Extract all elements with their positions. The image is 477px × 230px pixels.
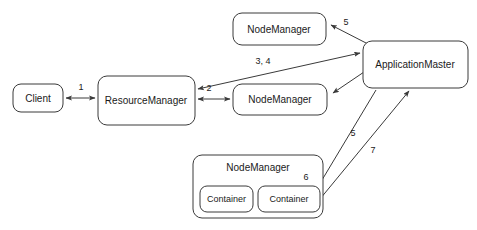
node-resourcemanager-label: ResourceManager xyxy=(105,95,188,106)
node-applicationmaster[interactable]: ApplicationMaster xyxy=(363,41,468,88)
edge-am-nodemanager-mid xyxy=(333,72,364,93)
node-nodemanager-mid-label: NodeManager xyxy=(248,94,312,105)
node-container-left-label: Container xyxy=(207,194,246,204)
yarn-architecture-diagram: ApplicationMaster left edge --> 3, 4 top… xyxy=(0,0,477,230)
node-resourcemanager[interactable]: ResourceManager xyxy=(98,76,195,125)
edge-label-2: 2 xyxy=(206,83,211,93)
node-applicationmaster-label: ApplicationMaster xyxy=(375,59,455,70)
edge-container-am: 7 xyxy=(320,91,409,199)
edge-label-6: 6 xyxy=(303,172,308,182)
diagram-canvas: ApplicationMaster left edge --> 3, 4 top… xyxy=(0,0,477,230)
node-client-label: Client xyxy=(25,93,51,104)
node-container-right-label: Container xyxy=(269,194,308,204)
edge-label-7: 7 xyxy=(370,145,375,155)
node-nodemanager-top[interactable]: NodeManager xyxy=(233,13,326,45)
node-nodemanager-top-label: NodeManager xyxy=(247,24,311,35)
edge-am-nodemanager-top: 5 xyxy=(331,17,368,44)
edge-label-5-bottom: 5 xyxy=(350,128,355,138)
edge-label-5-top: 5 xyxy=(343,17,348,27)
node-client[interactable]: Client xyxy=(13,84,63,112)
node-container-left[interactable]: Container xyxy=(200,186,253,212)
edge-label-1: 1 xyxy=(78,82,83,92)
node-nodemanager-bottom-label: NodeManager xyxy=(226,162,290,173)
node-nodemanager-mid[interactable]: NodeManager xyxy=(233,84,327,115)
edge-label-3-4: 3, 4 xyxy=(255,56,270,66)
edge-client-resourcemanager: 1 xyxy=(66,82,95,98)
node-container-right[interactable]: Container xyxy=(258,186,320,212)
